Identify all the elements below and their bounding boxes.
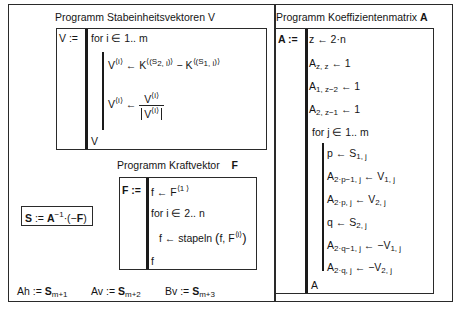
f-result: f bbox=[151, 256, 154, 267]
result-av: Av := Sm+2 bbox=[91, 286, 141, 299]
f-program-title: Programm Kraftvektor F bbox=[117, 160, 238, 171]
v-for-line: for i ∈ 1.. m bbox=[91, 33, 148, 44]
v-line-difference: V⟨i⟩ ← K⟨(S2, i)⟩ − K⟨(S1, i)⟩ bbox=[108, 58, 220, 71]
v-line-normalize: V⟨i⟩ ← V⟨i⟩ V⟨i⟩ bbox=[108, 92, 164, 119]
a-loop-line-2: A2·p, j ← V2, j bbox=[327, 194, 386, 207]
a-loop-bar bbox=[322, 143, 324, 271]
a-program-box bbox=[275, 28, 434, 294]
v-loop-bar bbox=[102, 52, 104, 130]
a-loop-line-0: p ← S1, j bbox=[327, 148, 367, 161]
f-line-stack: f ← stapeln (f, F⟨i⟩) bbox=[159, 231, 247, 244]
normalize-fraction: V⟨i⟩ V⟨i⟩ bbox=[139, 92, 164, 119]
a-loop-line-5: A2·q, j ← −V2, j bbox=[327, 262, 392, 275]
v-result: V bbox=[91, 136, 98, 147]
a-line-0: z ← 2·n bbox=[309, 34, 346, 45]
a-for-line: for j ∈ 1.. m bbox=[312, 127, 369, 138]
a-program-title: Programm Koeffizientenmatrix A bbox=[276, 12, 428, 23]
a-program-bar bbox=[305, 29, 308, 293]
v-program-bar bbox=[85, 29, 88, 149]
a-loop-line-3: q ← S2, j bbox=[327, 217, 367, 230]
a-loop-line-1: A2·p−1, j ← V1, j bbox=[327, 171, 395, 184]
f-assign: F := bbox=[122, 185, 141, 196]
a-line-1: Az, z ← 1 bbox=[309, 58, 351, 71]
a-result: A bbox=[311, 280, 318, 291]
a-line-3: A2, z−1 ← 1 bbox=[309, 104, 360, 117]
v-assign: V := bbox=[59, 33, 78, 44]
f-line-init: f ← F⟨1 ⟩ bbox=[151, 185, 189, 198]
a-assign: A := bbox=[278, 34, 298, 45]
solve-expression: S := A−1·(−F) bbox=[25, 211, 87, 224]
result-bv: Bv := Sm+3 bbox=[165, 286, 215, 299]
a-loop-line-4: A2·q−1, j ← −V1, j bbox=[327, 240, 401, 253]
result-ah: Ah := Sm+1 bbox=[17, 286, 68, 299]
v-program-title: Programm Stabeinheitsvektoren V bbox=[55, 12, 215, 23]
a-line-2: A1, z−2 ← 1 bbox=[309, 81, 360, 94]
v-program-box bbox=[56, 28, 267, 150]
f-program-bar bbox=[146, 178, 149, 269]
f-for-line: for i ∈ 2.. n bbox=[151, 208, 205, 219]
